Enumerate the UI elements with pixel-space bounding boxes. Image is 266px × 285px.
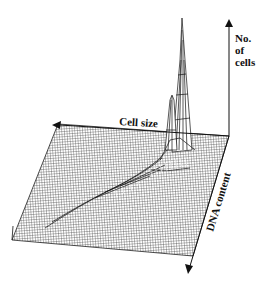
surface-plot-figure: No. of cells Cell size DNA content: [0, 0, 266, 285]
vertical-axis-label-line3: cells: [235, 56, 256, 68]
cell-size-label: Cell size: [119, 115, 159, 129]
vertical-axis-label-line2: of: [235, 44, 245, 56]
surface-mesh: [12, 124, 229, 256]
svg-text:No. of cells: No. of cells: [235, 32, 256, 68]
vertical-axis-arrowhead-icon: [225, 19, 233, 27]
dna-content-arrowhead-icon: [185, 264, 193, 274]
vertical-axis-label-line1: No.: [235, 32, 251, 44]
